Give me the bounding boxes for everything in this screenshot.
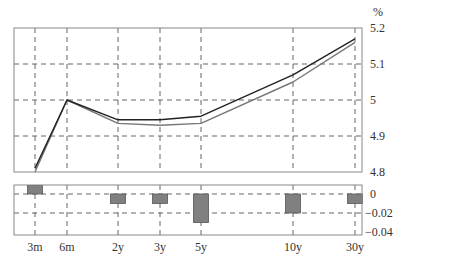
main-y-tick-label: 5.1 [370, 57, 385, 71]
difference-bar-5y [194, 194, 209, 223]
series-line-curve-a [35, 39, 355, 169]
main-y-tick-label: 4.8 [370, 165, 385, 179]
main-y-tick-label: 5 [370, 93, 376, 107]
difference-panel: 0−0.02−0.04 [14, 185, 393, 239]
difference-bars [28, 186, 363, 223]
difference-bar-10y [286, 194, 301, 213]
difference-gridlines [14, 185, 362, 235]
difference-bar-30y [348, 194, 363, 204]
difference-y-axis-ticks: 0−0.02−0.04 [365, 187, 393, 239]
x-tick-label: 30y [346, 240, 364, 254]
x-tick-label: 2y [112, 240, 124, 254]
main-y-axis-ticks: 5.25.154.94.8 [370, 21, 385, 179]
difference-y-tick-label: 0 [370, 187, 376, 201]
difference-bar-3y [153, 194, 168, 204]
main-y-tick-label: 5.2 [370, 21, 385, 35]
yield-curve-chart: % 5.25.154.94.8 0−0.02−0.04 3m6m2y3y5y10… [0, 0, 451, 262]
difference-plot-frame [14, 185, 362, 235]
difference-bar-3m [28, 186, 43, 195]
series-line-curve-b [35, 42, 355, 172]
x-tick-label: 5y [195, 240, 207, 254]
difference-y-tick-label: −0.02 [365, 206, 393, 220]
main-series-lines [35, 39, 355, 172]
main-panel: % 5.25.154.94.8 [14, 5, 385, 179]
difference-bar-2y [111, 194, 126, 204]
x-tick-label: 3y [154, 240, 166, 254]
unit-label: % [373, 5, 383, 19]
x-axis-ticks: 3m6m2y3y5y10y30y [27, 240, 364, 254]
x-tick-label: 10y [284, 240, 302, 254]
main-y-tick-label: 4.9 [370, 129, 385, 143]
x-tick-label: 3m [27, 240, 43, 254]
x-tick-label: 6m [59, 240, 75, 254]
difference-y-tick-label: −0.04 [365, 225, 393, 239]
main-gridlines [14, 28, 362, 172]
